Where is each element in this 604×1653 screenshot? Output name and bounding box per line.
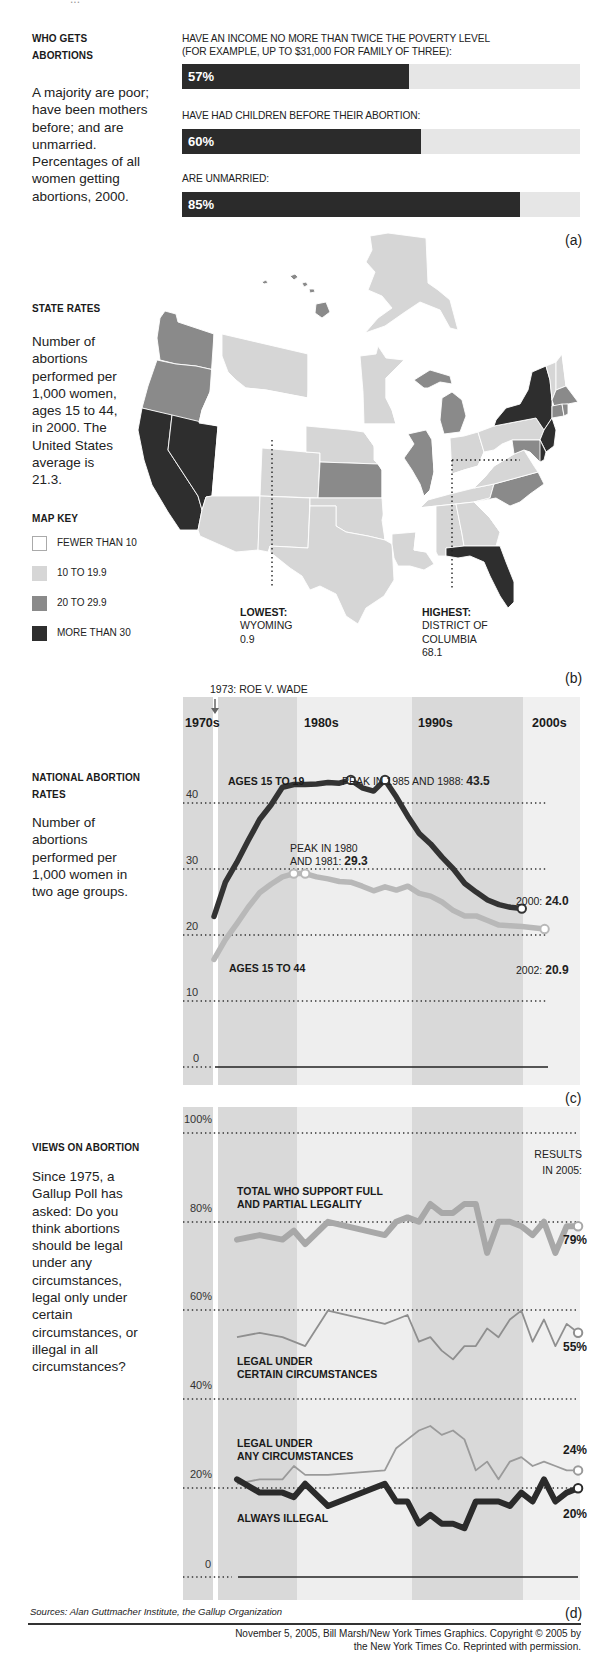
y-tick: 60%	[190, 1290, 212, 1302]
credit-line: November 5, 2005, Bill Marsh/New York Ti…	[150, 1628, 581, 1653]
y-tick: 0	[205, 1558, 211, 1570]
label-legal-any: LEGAL UNDERANY CIRCUMSTANCES	[237, 1437, 353, 1463]
end-value-certain: 55%	[563, 1341, 587, 1354]
y-tick: 80%	[190, 1202, 212, 1214]
label-total-legal: TOTAL WHO SUPPORT FULLAND PARTIAL LEGALI…	[237, 1185, 383, 1211]
y-tick: 40%	[190, 1379, 212, 1391]
data-point-marker	[574, 1484, 582, 1492]
sources-note: Sources: Alan Guttmacher Institute, the …	[30, 1606, 282, 1617]
data-point-marker	[574, 1329, 582, 1337]
footer-divider	[28, 1623, 581, 1625]
label-legal-certain: LEGAL UNDERCERTAIN CIRCUMSTANCES	[237, 1355, 377, 1381]
end-value-any: 24%	[563, 1444, 587, 1457]
end-value-illegal: 20%	[563, 1508, 587, 1521]
label-always-illegal: ALWAYS ILLEGAL	[237, 1512, 328, 1525]
end-value-total: 79%	[563, 1234, 587, 1247]
y-tick: 20%	[190, 1468, 212, 1480]
data-point-marker	[574, 1466, 582, 1474]
results-2005-label: RESULTSIN 2005:	[532, 1146, 582, 1178]
data-point-marker	[574, 1222, 582, 1230]
y-tick: 100%	[184, 1113, 212, 1125]
panel-letter-d: (d)	[565, 1605, 582, 1621]
